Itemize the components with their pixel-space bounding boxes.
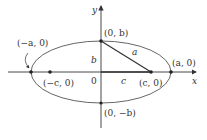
right-vertex-label: (a, 0) <box>172 58 196 68</box>
ellipse-diagram: y x 0 (0, b) (0, −b) (−a, 0) (a, 0) (−c,… <box>0 0 207 140</box>
bottom-covertex-point <box>99 101 102 104</box>
left-focus-label: (−c, 0) <box>43 78 74 88</box>
top-covertex-label: (0, b) <box>104 28 128 38</box>
origin-label: 0 <box>91 76 97 86</box>
right-focus-point <box>149 70 153 74</box>
left-vertex-point <box>29 70 33 74</box>
top-covertex-point <box>99 39 103 43</box>
bottom-covertex-label: (0, −b) <box>104 108 136 118</box>
right-vertex-point <box>169 70 173 74</box>
left-focus-point <box>48 70 52 74</box>
right-focus-label: (c, 0) <box>139 78 163 88</box>
segment-a-label: a <box>132 47 137 57</box>
segment-b-label: b <box>91 55 97 65</box>
left-vertex-label: (−a, 0) <box>17 38 48 48</box>
segment-a <box>101 41 151 72</box>
y-axis-label: y <box>91 5 98 15</box>
x-axis-label: x <box>192 76 197 86</box>
segment-c-label: c <box>121 76 126 86</box>
pointer-arrow <box>25 53 29 68</box>
